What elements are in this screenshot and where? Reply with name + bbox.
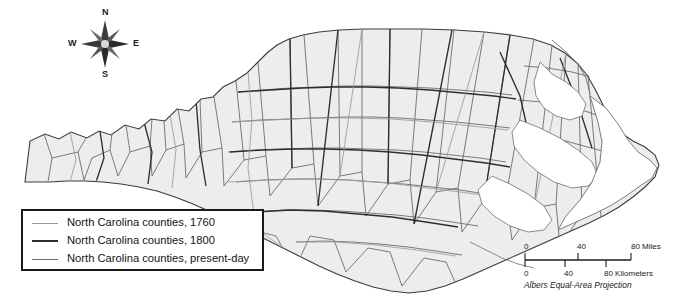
scale-units-miles: 80 Miles — [631, 243, 661, 251]
legend-item-present-day: North Carolina counties, present-day — [32, 250, 249, 268]
legend-label-1800: North Carolina counties, 1800 — [67, 235, 215, 246]
scale-tick-miles-40: 40 — [577, 243, 586, 251]
scale-bar-graphic — [524, 251, 644, 269]
legend-line-swatch-1800 — [32, 240, 58, 242]
legend-line-swatch-present-day — [32, 259, 58, 260]
scale-tick-km-0: 0 — [524, 270, 528, 278]
scale-bar: 0 40 80 Miles 0 40 80 Kilometers Albers … — [524, 243, 666, 291]
scale-tick-km-40: 40 — [564, 270, 573, 278]
legend-label-1760: North Carolina counties, 1760 — [67, 217, 215, 228]
legend-label-present-day: North Carolina counties, present-day — [67, 253, 249, 264]
compass-rose: N S W E — [68, 8, 142, 80]
map-legend: North Carolina counties, 1760 North Caro… — [21, 209, 264, 271]
scale-tick-miles-0: 0 — [524, 243, 528, 251]
compass-label-north: N — [102, 8, 109, 17]
legend-item-1800: North Carolina counties, 1800 — [32, 232, 215, 250]
compass-label-west: W — [68, 39, 77, 48]
scale-units-kilometers: 80 Kilometers — [604, 270, 653, 278]
compass-label-south: S — [102, 70, 108, 79]
compass-label-east: E — [133, 39, 139, 48]
legend-line-swatch-1760 — [32, 223, 58, 224]
map-figure: N S W E North Carolina counties, 1760 No… — [0, 0, 675, 306]
projection-label: Albers Equal-Area Projection — [524, 281, 632, 289]
legend-item-1760: North Carolina counties, 1760 — [32, 214, 215, 232]
